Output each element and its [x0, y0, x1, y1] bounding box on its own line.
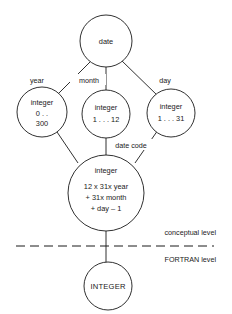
diagram-svg: date integer 0 . . 300 integer 1 . . . 1… [0, 0, 232, 314]
date-code-formula-line1: 12 x 31x year [84, 182, 129, 191]
edge-label-day: day [159, 76, 171, 85]
node-date[interactable]: date [80, 15, 132, 67]
day-circle [147, 89, 195, 137]
node-month[interactable]: integer 1 . . . 12 [82, 90, 130, 138]
node-date-code[interactable]: integer 12 x 31x year + 31x month + day … [68, 155, 144, 231]
year-range-end: 300 [36, 119, 48, 128]
month-circle [82, 90, 130, 138]
conceptual-level-label: conceptual level [164, 228, 216, 237]
year-type-label: integer [31, 98, 54, 107]
month-range-label: 1 . . . 12 [93, 115, 120, 124]
year-range-start: 0 . . [36, 109, 48, 118]
edge-label-date-code: date code [115, 141, 147, 150]
day-type-label: integer [160, 102, 183, 111]
edge-label-month: month [79, 76, 99, 85]
fortran-level-label: FORTRAN level [165, 255, 217, 264]
diagram-canvas: date integer 0 . . 300 integer 1 . . . 1… [0, 0, 232, 314]
date-code-type-label: integer [95, 166, 118, 175]
date-code-formula-line3: + day – 1 [91, 204, 122, 213]
node-year[interactable]: integer 0 . . 300 [17, 87, 67, 137]
edge-label-year: year [30, 76, 45, 85]
fortran-integer-label: INTEGER [90, 282, 125, 291]
date-label: date [99, 37, 113, 46]
date-code-formula-line2: + 31x month [86, 193, 127, 202]
month-type-label: integer [95, 103, 118, 112]
level-divider-group: conceptual level FORTRAN level [16, 228, 216, 264]
day-range-label: 1 . . . 31 [158, 114, 185, 123]
node-fortran-integer[interactable]: INTEGER [84, 262, 132, 310]
edge-year-datecode [55, 129, 78, 163]
node-day[interactable]: integer 1 . . . 31 [147, 89, 195, 137]
